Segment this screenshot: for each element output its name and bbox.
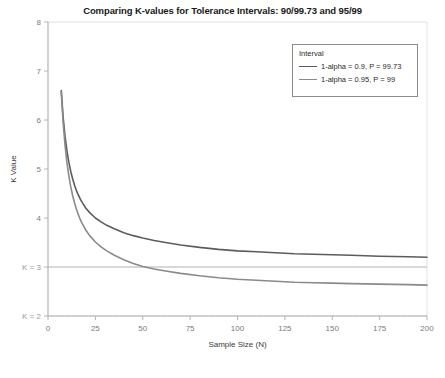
series-line-1 [61, 91, 427, 258]
y-axis-title: K Value [9, 155, 18, 183]
x-tick-label: 100 [231, 324, 245, 333]
legend-title: Interval [299, 49, 411, 58]
legend-item: 1-alpha = 0.95, P = 99 [299, 74, 411, 85]
y-tick-label: 7 [37, 67, 42, 76]
x-tick-label: 150 [326, 324, 340, 333]
x-axis-title: Sample Size (N) [208, 340, 267, 349]
x-tick-label: 75 [186, 324, 195, 333]
legend-label-series-1: 1-alpha = 0.9, P = 99.73 [321, 62, 401, 71]
legend-swatch-series-1 [299, 66, 317, 67]
x-tick-label: 25 [91, 324, 100, 333]
tolerance-interval-k-value-chart: Comparing K-values for Tolerance Interva… [0, 0, 445, 378]
legend-label-series-2: 1-alpha = 0.95, P = 99 [321, 75, 395, 84]
y-tick-label: K = 3 [22, 263, 41, 272]
y-tick-label: K = 2 [22, 312, 41, 321]
x-tick-label: 200 [420, 324, 434, 333]
y-tick-label: 5 [37, 165, 42, 174]
x-tick-label: 0 [46, 324, 51, 333]
x-tick-label: 50 [138, 324, 147, 333]
legend-swatch-series-2 [299, 79, 317, 80]
legend-item: 1-alpha = 0.9, P = 99.73 [299, 61, 411, 72]
x-tick-label: 175 [373, 324, 387, 333]
y-tick-label: 8 [37, 18, 42, 27]
y-tick-label: 4 [37, 214, 42, 223]
legend: Interval 1-alpha = 0.9, P = 99.73 1-alph… [292, 44, 418, 97]
x-tick-label: 125 [278, 324, 292, 333]
y-tick-label: 6 [37, 116, 42, 125]
